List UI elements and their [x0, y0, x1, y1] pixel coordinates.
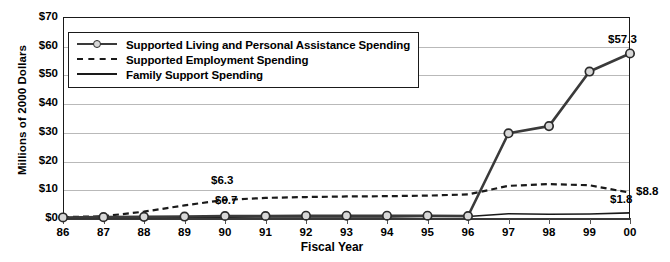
legend-item-family-support: Family Support Spending [75, 67, 410, 82]
data-point-marker [59, 213, 67, 221]
data-label: $1.8 [610, 193, 632, 205]
legend-label-supported-living: Supported Living and Personal Assistance… [126, 39, 410, 51]
line-circle-marker-key [75, 37, 119, 52]
dashed-line-key [75, 52, 119, 67]
data-point-marker [383, 212, 391, 220]
data-point-marker [261, 212, 269, 220]
data-point-marker [99, 213, 107, 221]
chart-legend: Supported Living and Personal Assistance… [68, 32, 419, 88]
legend-label-family-support: Family Support Spending [126, 69, 263, 81]
data-label: $0.7 [215, 194, 237, 206]
data-point-marker [585, 67, 593, 75]
data-point-marker [180, 212, 188, 220]
data-label: $57.3 [608, 33, 637, 45]
data-point-marker [221, 212, 229, 220]
line-chart: Millions of 2000 Dollars $0$10$20$30$40$… [0, 0, 670, 262]
data-point-marker [140, 213, 148, 221]
data-label: $8.8 [636, 185, 658, 197]
legend-label-supported-employment: Supported Employment Spending [126, 54, 308, 66]
legend-item-supported-living: Supported Living and Personal Assistance… [75, 37, 410, 52]
data-label: $6.3 [211, 174, 233, 186]
solid-line-key [75, 67, 119, 82]
data-point-marker [464, 212, 472, 220]
legend-item-supported-employment: Supported Employment Spending [75, 52, 410, 67]
data-point-marker [545, 122, 553, 130]
data-point-marker [342, 212, 350, 220]
data-point-marker [423, 212, 431, 220]
data-point-marker [626, 49, 634, 57]
data-point-marker [504, 129, 512, 137]
data-point-marker [302, 212, 310, 220]
